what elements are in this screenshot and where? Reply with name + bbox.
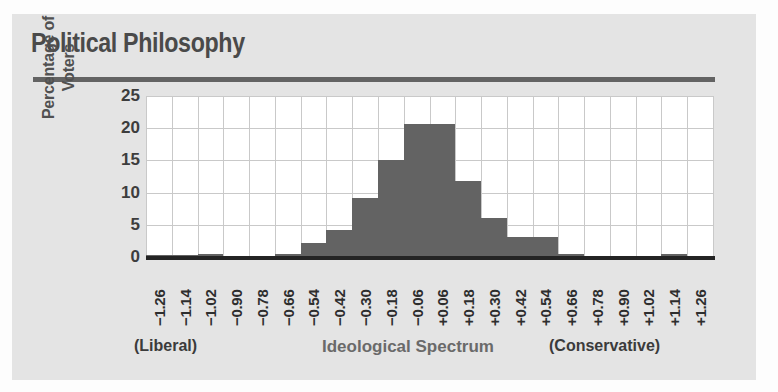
page-margin-bottom bbox=[0, 380, 778, 392]
x-tick-label: −0.78 bbox=[253, 262, 270, 326]
y-tick-label: 20 bbox=[104, 119, 140, 136]
x-tick-label: −1.26 bbox=[150, 262, 167, 326]
bar-slot bbox=[584, 96, 610, 257]
y-axis-title-line1: Percentage of bbox=[39, 0, 59, 145]
title-underline-rule bbox=[33, 77, 715, 82]
bar-slot bbox=[636, 96, 662, 257]
bar bbox=[429, 124, 455, 257]
x-tick-label: +0.42 bbox=[511, 262, 528, 326]
page-margin-top bbox=[0, 0, 778, 14]
x-tick-slot: −0.66 bbox=[275, 262, 301, 328]
x-tick-label: −0.90 bbox=[228, 262, 245, 326]
bar-slot bbox=[378, 96, 404, 257]
x-tick-label: −0.66 bbox=[279, 262, 296, 326]
y-axis-title: Percentage of Voters bbox=[39, 0, 81, 145]
bar bbox=[507, 237, 533, 257]
page-margin-left bbox=[0, 0, 12, 392]
x-axis-baseline bbox=[146, 256, 715, 260]
bar bbox=[455, 181, 481, 257]
bar-slot bbox=[352, 96, 378, 257]
x-tick-slot: −0.78 bbox=[249, 262, 275, 328]
bar-slot bbox=[301, 96, 327, 257]
x-tick-label: +0.06 bbox=[434, 262, 451, 326]
x-tick-label: +0.78 bbox=[588, 262, 605, 326]
x-tick-label: +0.66 bbox=[563, 262, 580, 326]
x-tick-label: +0.18 bbox=[460, 262, 477, 326]
bar-slot bbox=[558, 96, 584, 257]
chart-figure: Political Philosophy Percentage of Voter… bbox=[0, 0, 778, 392]
bar-slot bbox=[455, 96, 481, 257]
x-tick-slot: −0.54 bbox=[301, 262, 327, 328]
x-tick-label: −0.30 bbox=[357, 262, 374, 326]
y-tick-label: 5 bbox=[104, 216, 140, 233]
x-tick-slot: +1.14 bbox=[661, 262, 687, 328]
x-tick-label: +1.02 bbox=[640, 262, 657, 326]
x-tick-slot: −1.14 bbox=[172, 262, 198, 328]
bar-slot bbox=[172, 96, 198, 257]
x-tick-slot: +1.02 bbox=[636, 262, 662, 328]
plot-area bbox=[146, 96, 713, 257]
x-tick-label: −1.14 bbox=[176, 262, 193, 326]
x-axis-left-annotation: (Liberal) bbox=[134, 337, 197, 355]
bar bbox=[326, 230, 352, 257]
x-tick-slot: +1.26 bbox=[687, 262, 713, 328]
bar-slot bbox=[198, 96, 224, 257]
y-tick-label: 10 bbox=[104, 184, 140, 201]
y-tick-label: 15 bbox=[104, 151, 140, 168]
x-tick-slot: +0.66 bbox=[558, 262, 584, 328]
x-tick-slot: +0.90 bbox=[610, 262, 636, 328]
x-tick-slot: −0.06 bbox=[404, 262, 430, 328]
x-tick-label: +1.14 bbox=[666, 262, 683, 326]
x-tick-slot: +0.78 bbox=[584, 262, 610, 328]
x-tick-slot: −0.18 bbox=[378, 262, 404, 328]
bar-series bbox=[146, 96, 713, 257]
x-axis-tick-labels: −1.26−1.14−1.02−0.90−0.78−0.66−0.54−0.42… bbox=[146, 262, 713, 328]
x-tick-label: +0.90 bbox=[614, 262, 631, 326]
bar-slot bbox=[661, 96, 687, 257]
bar bbox=[481, 218, 507, 257]
bar-slot bbox=[687, 96, 713, 257]
x-tick-label: +1.26 bbox=[691, 262, 708, 326]
x-tick-slot: +0.06 bbox=[429, 262, 455, 328]
y-axis-title-line2: Voters bbox=[59, 0, 79, 145]
x-tick-slot: −0.30 bbox=[352, 262, 378, 328]
bar-slot bbox=[610, 96, 636, 257]
x-tick-slot: +0.54 bbox=[532, 262, 558, 328]
bar-slot bbox=[146, 96, 172, 257]
x-axis-right-annotation: (Conservative) bbox=[549, 337, 660, 355]
bar bbox=[404, 124, 430, 257]
bar bbox=[532, 237, 558, 257]
x-tick-slot: +0.30 bbox=[481, 262, 507, 328]
x-tick-slot: −0.90 bbox=[223, 262, 249, 328]
x-tick-label: +0.30 bbox=[485, 262, 502, 326]
bar bbox=[378, 160, 404, 257]
x-tick-slot: −1.26 bbox=[146, 262, 172, 328]
bar-slot bbox=[223, 96, 249, 257]
bar-slot bbox=[507, 96, 533, 257]
gridline-vertical bbox=[713, 96, 714, 257]
page-margin-right bbox=[756, 0, 778, 392]
x-tick-slot: +0.18 bbox=[455, 262, 481, 328]
x-tick-slot: −0.42 bbox=[326, 262, 352, 328]
x-tick-label: −0.06 bbox=[408, 262, 425, 326]
bar-slot bbox=[532, 96, 558, 257]
y-tick-label: 25 bbox=[104, 87, 140, 104]
bar-slot bbox=[249, 96, 275, 257]
bar-slot bbox=[481, 96, 507, 257]
x-tick-label: −0.42 bbox=[331, 262, 348, 326]
x-tick-slot: +0.42 bbox=[507, 262, 533, 328]
bar-slot bbox=[326, 96, 352, 257]
x-tick-slot: −1.02 bbox=[198, 262, 224, 328]
x-tick-label: −1.02 bbox=[202, 262, 219, 326]
bar bbox=[352, 198, 378, 257]
x-tick-label: −0.18 bbox=[382, 262, 399, 326]
bar bbox=[301, 243, 327, 257]
x-tick-label: −0.54 bbox=[305, 262, 322, 326]
bar-slot bbox=[429, 96, 455, 257]
x-axis-title: Ideological Spectrum bbox=[322, 337, 494, 357]
x-tick-label: +0.54 bbox=[537, 262, 554, 326]
y-tick-label: 0 bbox=[104, 248, 140, 265]
bar-slot bbox=[275, 96, 301, 257]
bar-slot bbox=[404, 96, 430, 257]
y-axis-tick-labels: 2520151050 bbox=[96, 96, 140, 257]
